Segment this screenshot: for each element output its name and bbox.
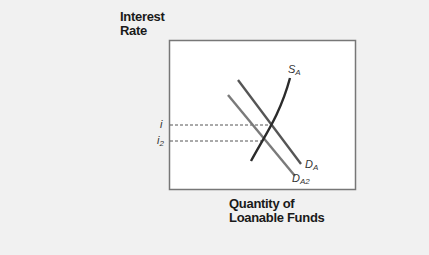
x-axis-label: Quantity of Loanable Funds [229, 197, 324, 225]
x-axis-label-line1: Quantity of [229, 197, 324, 211]
plot-frame [170, 41, 356, 190]
x-axis-label-line2: Loanable Funds [229, 211, 324, 225]
rate-i2-label: i2 [157, 134, 164, 148]
loanable-funds-diagram: SA DA DA2 i i2 [0, 0, 429, 255]
rate-i-label: i [160, 118, 163, 130]
